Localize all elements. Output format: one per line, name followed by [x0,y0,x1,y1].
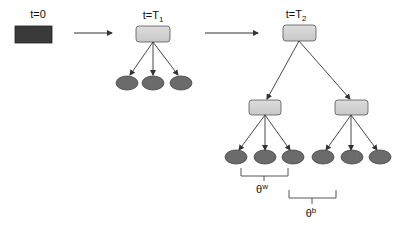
leaf-node [170,76,192,90]
stage-t2: t=T2 [225,8,391,164]
stage-t1-label: t=T1 [143,9,164,24]
edge [299,41,350,99]
bracket-theta-b: θb [289,190,336,219]
stage-t2-label: t=T2 [286,8,307,23]
edge [265,115,290,150]
tree-growth-diagram: t=0 t=T1 t=T2 [0,0,403,232]
leaf-node [282,150,304,164]
theta-w-label: θw [256,182,268,195]
edge [239,115,265,150]
theta-b-label: θb [306,206,317,219]
t2-right-child-node [335,100,368,115]
leaf-node [142,76,164,90]
t2-left-child-node [249,100,281,115]
edge [351,115,377,150]
stage-t0-label: t=0 [30,8,46,20]
initial-node [15,26,52,43]
leaf-node [341,150,363,164]
stage-t1: t=T1 [116,9,192,90]
leaf-node [254,150,276,164]
edge [130,42,153,75]
leaf-node [116,76,138,90]
edge [267,41,299,99]
leaf-node [225,150,247,164]
bracket-theta-w: θw [241,168,288,195]
leaf-node [369,150,391,164]
t1-root-node [136,26,170,42]
edge [326,115,351,150]
leaf-node [312,150,334,164]
stage-t0: t=0 [15,8,52,43]
t2-root-node [283,25,316,41]
edge [153,42,178,75]
